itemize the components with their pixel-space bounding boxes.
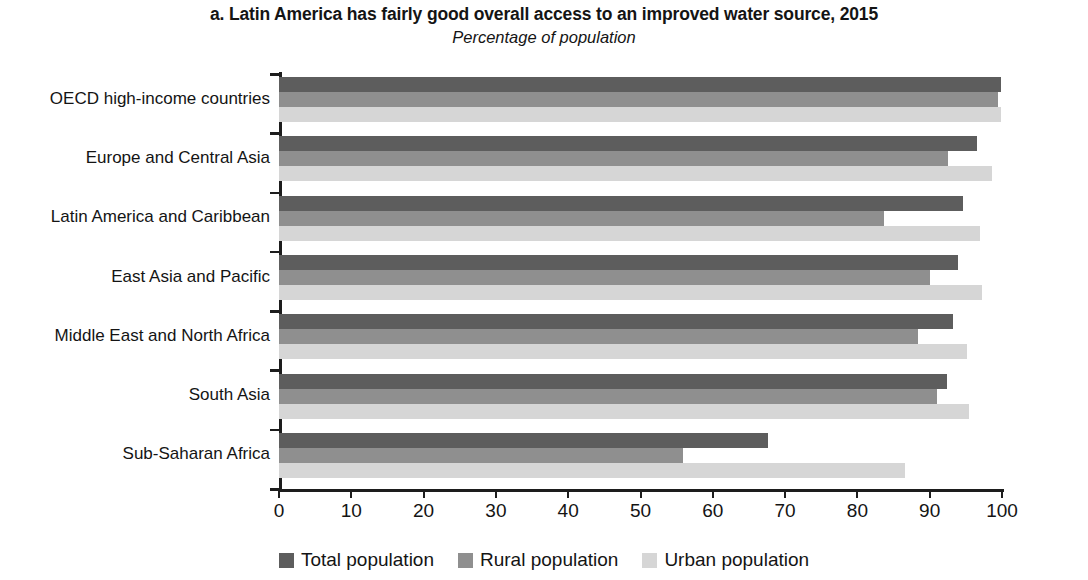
bar-urban <box>279 463 905 478</box>
x-axis-tick-label: 50 <box>611 500 671 522</box>
x-axis-tick <box>1001 489 1003 498</box>
bar-total <box>279 433 768 448</box>
chart-title: a. Latin America has fairly good overall… <box>0 4 1088 25</box>
x-axis-tick <box>350 489 352 498</box>
legend-label: Rural population <box>480 549 618 571</box>
bar-urban <box>279 285 982 300</box>
y-axis-tick <box>270 132 281 135</box>
x-axis-tick-label: 90 <box>900 500 960 522</box>
x-axis-tick-label: 100 <box>972 500 1032 522</box>
bar-total <box>279 77 1001 92</box>
bar-rural <box>279 389 937 404</box>
x-axis-tick-label: 40 <box>538 500 598 522</box>
x-axis-tick-label: 80 <box>827 500 887 522</box>
legend-swatch-icon <box>458 553 473 568</box>
x-axis-tick-label: 70 <box>755 500 815 522</box>
bar-rural <box>279 448 683 463</box>
x-axis-tick <box>423 489 425 498</box>
bar-total <box>279 314 953 329</box>
chart-figure: a. Latin America has fairly good overall… <box>0 0 1088 580</box>
x-axis-tick <box>640 489 642 498</box>
x-axis-tick <box>856 489 858 498</box>
y-axis-tick <box>270 488 281 491</box>
legend-swatch-icon <box>279 553 294 568</box>
legend-label: Total population <box>301 549 434 571</box>
category-label: East Asia and Pacific <box>0 267 270 287</box>
x-axis-tick <box>929 489 931 498</box>
chart-legend: Total populationRural populationUrban po… <box>0 549 1088 571</box>
x-axis-tick <box>567 489 569 498</box>
bar-urban <box>279 226 980 241</box>
bar-urban <box>279 344 967 359</box>
legend-item[interactable]: Urban population <box>642 549 809 571</box>
category-label: South Asia <box>0 385 270 405</box>
bar-rural <box>279 211 884 226</box>
bar-total <box>279 374 947 389</box>
x-axis-tick-label: 0 <box>249 500 309 522</box>
y-axis-tick <box>270 369 281 372</box>
category-label: Middle East and North Africa <box>0 326 270 346</box>
legend-item[interactable]: Rural population <box>458 549 618 571</box>
bar-urban <box>279 107 1001 122</box>
category-label: Sub-Saharan Africa <box>0 444 270 464</box>
bar-rural <box>279 92 998 107</box>
chart-subtitle: Percentage of population <box>0 28 1088 47</box>
category-label: OECD high-income countries <box>0 89 270 109</box>
y-axis-tick <box>270 251 281 254</box>
x-axis-tick-label: 10 <box>321 500 381 522</box>
y-axis-tick <box>270 429 281 432</box>
x-axis-tick <box>784 489 786 498</box>
legend-swatch-icon <box>642 553 657 568</box>
category-label: Europe and Central Asia <box>0 148 270 168</box>
bar-urban <box>279 166 992 181</box>
bar-total <box>279 255 958 270</box>
x-axis-tick-label: 20 <box>394 500 454 522</box>
y-axis-tick <box>270 310 281 313</box>
y-axis-tick <box>270 192 281 195</box>
bar-rural <box>279 329 918 344</box>
category-label: Latin America and Caribbean <box>0 207 270 227</box>
bar-rural <box>279 270 930 285</box>
y-axis-tick <box>270 73 281 76</box>
legend-label: Urban population <box>664 549 809 571</box>
bar-total <box>279 196 963 211</box>
x-axis-tick <box>495 489 497 498</box>
legend-item[interactable]: Total population <box>279 549 434 571</box>
bar-urban <box>279 404 969 419</box>
bar-rural <box>279 151 948 166</box>
x-axis-tick <box>712 489 714 498</box>
x-axis-tick-label: 60 <box>683 500 743 522</box>
bar-total <box>279 136 977 151</box>
x-axis-tick-label: 30 <box>466 500 526 522</box>
x-axis-line <box>279 489 1004 492</box>
